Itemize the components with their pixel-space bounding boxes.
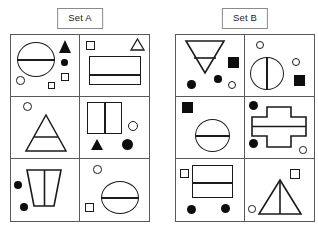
circle-horizontal-divider	[17, 59, 55, 61]
large-triangle-with-horizontal-line	[24, 113, 68, 153]
set-b-cell-row3-col2[interactable]	[245, 159, 314, 221]
small-open-circle	[248, 205, 256, 213]
circle-horizontal-divider	[195, 135, 230, 137]
set-b-cell-row3-col1[interactable]	[176, 159, 245, 221]
set-b-cell-row1-col2[interactable]	[245, 35, 314, 97]
small-open-circle	[128, 121, 138, 131]
small-open-circle-right	[292, 58, 300, 66]
small-open-square-a	[61, 73, 69, 81]
set-a-cell-row3-col2[interactable]	[80, 159, 149, 221]
small-filled-circle	[61, 59, 68, 66]
small-open-circle	[93, 165, 102, 174]
set-b-cell-row2-col2[interactable]	[245, 97, 314, 159]
set-a-cell-row1-col2[interactable]	[80, 35, 149, 97]
small-open-circle	[299, 146, 307, 154]
small-open-circle	[228, 81, 236, 89]
large-rectangle-with-horizontal-line	[89, 56, 141, 85]
figure-canvas: Set A	[0, 0, 318, 236]
small-open-square	[180, 169, 189, 178]
set-b-block: Set B	[171, 0, 318, 236]
large-triangle-with-vertical-line	[257, 178, 303, 216]
ellipse-vertical-divider	[266, 57, 268, 90]
small-filled-circle-left	[187, 205, 196, 214]
small-open-triangle	[130, 38, 145, 51]
set-a-cell-row1-col1[interactable]	[11, 35, 80, 97]
small-filled-square	[228, 57, 239, 68]
small-filled-square	[294, 75, 305, 86]
small-filled-circle-upper	[14, 181, 22, 189]
small-filled-circle-center	[214, 75, 222, 83]
rectangle-horizontal-divider	[192, 182, 233, 184]
rectangle-horizontal-divider	[89, 74, 141, 76]
small-open-square	[86, 41, 95, 50]
set-a-cell-row3-col1[interactable]	[11, 159, 80, 221]
set-b-cell-row1-col1[interactable]	[176, 35, 245, 97]
small-open-circle-top	[256, 41, 264, 49]
small-filled-triangle	[91, 139, 103, 150]
small-filled-circle-right	[221, 204, 230, 213]
small-open-circle	[16, 76, 25, 85]
set-a-block: Set A	[6, 0, 154, 236]
rectangle-vertical-divider	[104, 102, 106, 134]
large-trapezoid-with-vertical-line	[25, 168, 63, 208]
set-a-cell-row2-col2[interactable]	[80, 97, 149, 159]
set-a-label: Set A	[57, 8, 103, 29]
set-b-label: Set B	[222, 8, 268, 29]
set-a-grid	[10, 34, 150, 222]
small-filled-circle-lower	[20, 203, 28, 211]
small-filled-circle-left	[187, 80, 196, 89]
small-filled-triangle	[59, 40, 71, 53]
small-filled-square	[182, 102, 193, 113]
set-b-cell-row2-col1[interactable]	[176, 97, 245, 159]
circle-horizontal-divider	[101, 197, 139, 199]
large-filled-circle	[122, 139, 133, 150]
small-open-circle	[23, 102, 32, 111]
set-a-cell-row2-col1[interactable]	[11, 97, 80, 159]
small-open-square-b	[48, 82, 55, 89]
set-b-grid	[175, 34, 315, 222]
small-filled-circle-bottom	[249, 139, 258, 148]
large-inverted-triangle-with-horizontal-line	[184, 39, 226, 75]
small-open-square	[85, 203, 94, 212]
large-cross-with-horizontal-line	[250, 105, 308, 149]
